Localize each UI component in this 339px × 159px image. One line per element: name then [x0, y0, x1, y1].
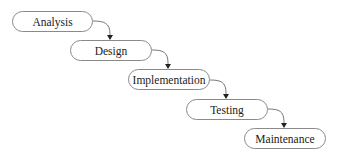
node-analysis: Analysis: [12, 11, 93, 32]
node-maintenance: Maintenance: [244, 128, 326, 149]
node-label: Implementation: [133, 74, 206, 86]
arrow-design-to-implementation: [152, 50, 168, 65]
node-testing: Testing: [186, 99, 268, 120]
arrow-analysis-to-design: [93, 21, 110, 36]
node-label: Design: [95, 45, 128, 57]
node-design: Design: [70, 40, 152, 61]
node-label: Analysis: [32, 16, 72, 28]
node-label: Maintenance: [255, 133, 314, 145]
arrow-testing-to-maintenance: [268, 109, 284, 124]
waterfall-diagram: Analysis Design Implementation Testing M…: [0, 0, 339, 159]
arrow-implementation-to-testing: [210, 80, 226, 95]
node-implementation: Implementation: [128, 69, 210, 90]
node-label: Testing: [210, 104, 244, 116]
